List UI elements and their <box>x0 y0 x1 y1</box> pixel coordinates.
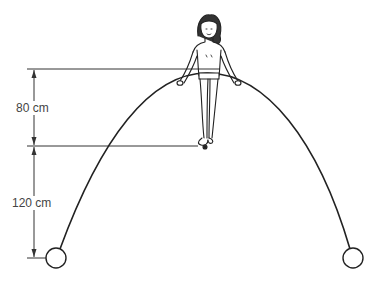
arrowhead-down-icon <box>32 249 37 257</box>
arrowhead-up-icon <box>32 70 37 78</box>
arrowhead-down-icon <box>32 137 37 145</box>
girl-figure-icon <box>177 15 241 149</box>
left-pulley-icon <box>46 248 66 268</box>
dimension-label-120: 120 cm <box>11 196 52 210</box>
dimension-label-80: 80 cm <box>15 101 50 115</box>
diagram-canvas <box>0 0 379 288</box>
wire-arc <box>60 73 350 249</box>
right-pulley-icon <box>343 248 363 268</box>
arrowhead-up-icon <box>32 147 37 155</box>
